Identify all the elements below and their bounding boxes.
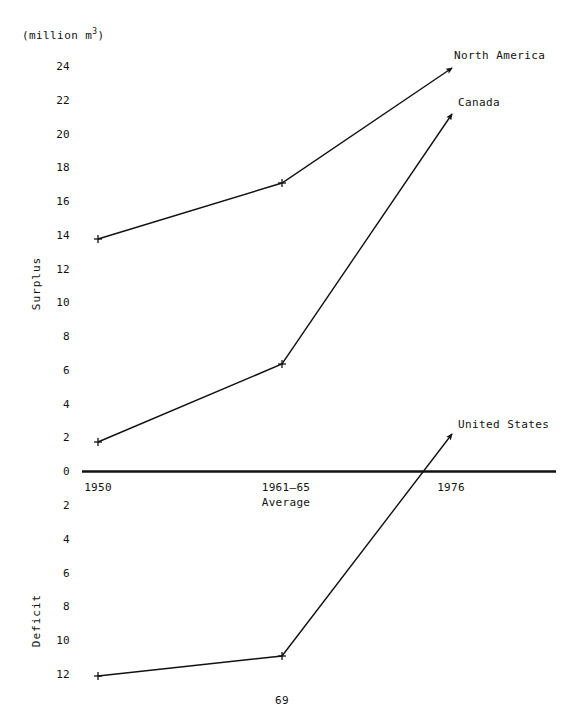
- x-tick-1961-65-sublabel: Average: [250, 496, 322, 509]
- page-number: 69: [0, 694, 564, 707]
- x-tick-1961-65-label: 1961–65: [262, 481, 310, 494]
- x-tick-1976-label: 1976: [437, 481, 465, 494]
- x-tick-1976: 1976: [421, 481, 481, 494]
- chart-plot-area: [0, 0, 564, 727]
- series-label-north-america: North America: [454, 49, 545, 62]
- series-line-canada: [98, 114, 452, 442]
- series-line-north-america: [98, 68, 452, 239]
- x-tick-1950: 1950: [68, 481, 128, 494]
- x-tick-1961-65: 1961–65 Average: [250, 481, 322, 509]
- series-label-united-states: United States: [458, 418, 549, 431]
- data-point-markers: [94, 179, 286, 680]
- x-tick-1950-label: 1950: [84, 481, 112, 494]
- series-label-canada: Canada: [458, 96, 500, 109]
- chart-page: (million m3) Surplus Deficit 24 22 20 18…: [0, 0, 564, 727]
